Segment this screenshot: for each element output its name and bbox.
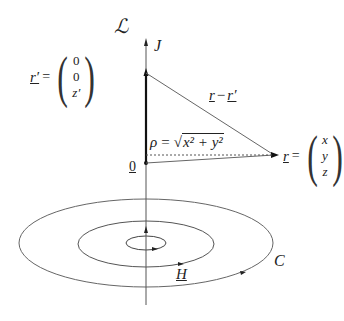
left-paren: ( (57, 48, 68, 106)
line-label: ℒ (114, 16, 128, 36)
right-paren: ) (332, 127, 343, 185)
difference-label: r−r′ (209, 88, 236, 103)
curve-label: C (274, 253, 285, 269)
inner-axis-arrow-icon (144, 226, 148, 233)
source-point-symbol: r′ (30, 70, 39, 85)
equals-sign: = (292, 148, 300, 164)
source-point-vector: r′ = ( 0 0 z′ ) (30, 48, 100, 106)
field-point-symbol: r (283, 149, 289, 164)
right-paren: ) (85, 48, 96, 106)
source-arrow-icon (144, 68, 149, 76)
current-label: J (154, 38, 161, 54)
field-label: H (176, 267, 187, 282)
r-vector-line (146, 155, 274, 163)
axis-arrow-icon (144, 38, 148, 46)
arrow-inner-icon (152, 247, 158, 251)
left-paren: ( (307, 127, 318, 185)
r-arrow-icon (271, 152, 279, 158)
field-point-components: x y z (322, 132, 328, 180)
arrow-outer-icon (240, 271, 246, 275)
rho-label: ρ=√x² + y² (150, 135, 224, 150)
source-point-components: 0 0 z′ (72, 53, 80, 101)
field-point-vector: r = ( x y z ) (283, 127, 344, 185)
equals-sign: = (42, 69, 50, 85)
origin-label: 0 (129, 160, 136, 174)
